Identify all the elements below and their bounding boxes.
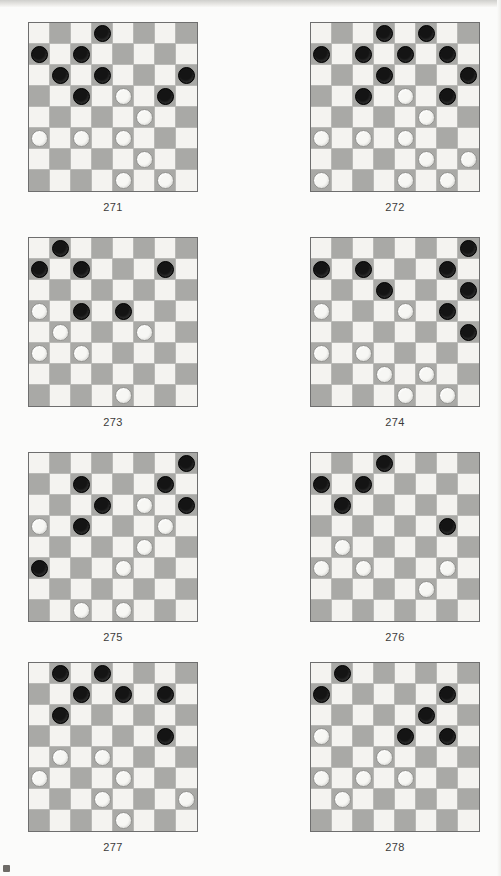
square-r7-c2[interactable] (353, 600, 374, 621)
square-r0-c0[interactable] (29, 23, 50, 44)
square-r3-c1[interactable] (332, 86, 353, 107)
square-r4-c2[interactable] (353, 747, 374, 768)
white-piece[interactable] (31, 518, 48, 535)
square-r5-c4[interactable] (395, 343, 416, 364)
square-r1-c6[interactable] (437, 474, 458, 495)
square-r4-c4[interactable] (113, 747, 134, 768)
square-r6-c5[interactable] (416, 579, 437, 600)
square-r6-c4[interactable] (395, 789, 416, 810)
square-r5-c2[interactable] (353, 343, 374, 364)
square-r2-c3[interactable] (374, 495, 395, 516)
square-r7-c3[interactable] (374, 600, 395, 621)
square-r4-c7[interactable] (176, 747, 197, 768)
white-piece[interactable] (313, 172, 330, 189)
square-r2-c4[interactable] (395, 705, 416, 726)
black-piece[interactable] (460, 240, 477, 257)
square-r2-c4[interactable] (395, 65, 416, 86)
square-r5-c0[interactable] (29, 343, 50, 364)
square-r0-c3[interactable] (374, 238, 395, 259)
black-piece[interactable] (94, 497, 111, 514)
square-r0-c6[interactable] (437, 453, 458, 474)
square-r4-c2[interactable] (353, 107, 374, 128)
square-r5-c4[interactable] (395, 558, 416, 579)
square-r6-c2[interactable] (353, 364, 374, 385)
square-r1-c7[interactable] (458, 474, 479, 495)
square-r2-c1[interactable] (332, 65, 353, 86)
square-r2-c5[interactable] (134, 65, 155, 86)
black-piece[interactable] (94, 25, 111, 42)
square-r5-c2[interactable] (71, 558, 92, 579)
square-r3-c7[interactable] (458, 726, 479, 747)
black-piece[interactable] (31, 560, 48, 577)
square-r2-c2[interactable] (353, 495, 374, 516)
square-r1-c7[interactable] (458, 44, 479, 65)
black-piece[interactable] (178, 67, 195, 84)
square-r0-c1[interactable] (50, 238, 71, 259)
square-r2-c0[interactable] (311, 65, 332, 86)
square-r2-c5[interactable] (134, 280, 155, 301)
square-r2-c2[interactable] (71, 705, 92, 726)
square-r0-c4[interactable] (113, 238, 134, 259)
square-r0-c5[interactable] (416, 238, 437, 259)
square-r3-c3[interactable] (92, 726, 113, 747)
square-r3-c0[interactable] (311, 301, 332, 322)
square-r4-c1[interactable] (332, 537, 353, 558)
square-r1-c2[interactable] (353, 259, 374, 280)
square-r4-c4[interactable] (395, 107, 416, 128)
square-r6-c6[interactable] (155, 579, 176, 600)
square-r6-c4[interactable] (113, 789, 134, 810)
white-piece[interactable] (115, 130, 132, 147)
square-r2-c3[interactable] (374, 280, 395, 301)
square-r4-c2[interactable] (71, 747, 92, 768)
square-r1-c6[interactable] (155, 474, 176, 495)
square-r2-c5[interactable] (134, 705, 155, 726)
square-r6-c6[interactable] (155, 149, 176, 170)
square-r6-c3[interactable] (92, 579, 113, 600)
white-piece[interactable] (157, 172, 174, 189)
square-r3-c3[interactable] (92, 301, 113, 322)
square-r1-c0[interactable] (29, 44, 50, 65)
square-r4-c4[interactable] (395, 747, 416, 768)
white-piece[interactable] (31, 130, 48, 147)
square-r4-c5[interactable] (416, 107, 437, 128)
square-r4-c2[interactable] (353, 537, 374, 558)
square-r7-c6[interactable] (155, 810, 176, 831)
square-r0-c1[interactable] (332, 663, 353, 684)
black-piece[interactable] (31, 261, 48, 278)
black-piece[interactable] (52, 665, 69, 682)
square-r6-c4[interactable] (113, 579, 134, 600)
square-r6-c6[interactable] (437, 579, 458, 600)
square-r0-c2[interactable] (71, 453, 92, 474)
square-r1-c6[interactable] (437, 44, 458, 65)
square-r2-c4[interactable] (113, 280, 134, 301)
square-r2-c0[interactable] (311, 280, 332, 301)
square-r6-c2[interactable] (353, 149, 374, 170)
square-r6-c7[interactable] (458, 149, 479, 170)
black-piece[interactable] (31, 46, 48, 63)
square-r3-c6[interactable] (155, 516, 176, 537)
square-r7-c6[interactable] (437, 600, 458, 621)
square-r3-c0[interactable] (29, 301, 50, 322)
square-r1-c7[interactable] (176, 684, 197, 705)
square-r1-c7[interactable] (176, 259, 197, 280)
square-r3-c1[interactable] (50, 86, 71, 107)
square-r3-c4[interactable] (113, 301, 134, 322)
square-r5-c2[interactable] (353, 558, 374, 579)
square-r0-c2[interactable] (353, 238, 374, 259)
square-r0-c1[interactable] (50, 663, 71, 684)
square-r1-c7[interactable] (176, 474, 197, 495)
square-r3-c1[interactable] (50, 726, 71, 747)
square-r7-c1[interactable] (50, 170, 71, 191)
square-r2-c3[interactable] (92, 495, 113, 516)
square-r5-c1[interactable] (332, 558, 353, 579)
square-r4-c7[interactable] (458, 322, 479, 343)
square-r4-c7[interactable] (176, 107, 197, 128)
square-r6-c5[interactable] (416, 364, 437, 385)
square-r6-c7[interactable] (176, 579, 197, 600)
square-r6-c5[interactable] (134, 149, 155, 170)
black-piece[interactable] (376, 25, 393, 42)
square-r6-c1[interactable] (332, 789, 353, 810)
white-piece[interactable] (313, 345, 330, 362)
square-r3-c4[interactable] (113, 516, 134, 537)
black-piece[interactable] (355, 261, 372, 278)
